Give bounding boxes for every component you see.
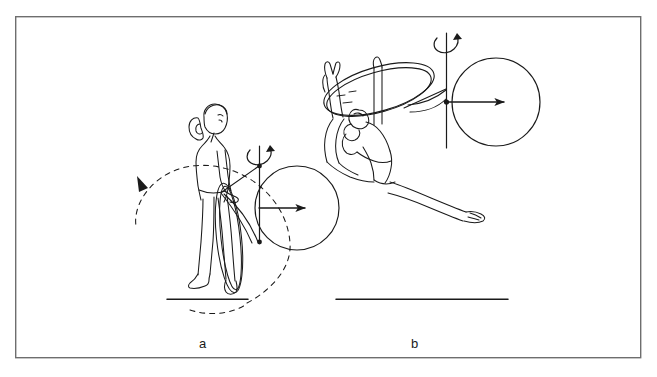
panel-b-gymnast bbox=[325, 57, 485, 223]
panel-a-gymnast bbox=[189, 104, 239, 294]
panel-a-label: a bbox=[199, 337, 206, 350]
panel-a bbox=[136, 104, 339, 314]
panel-b-torso-top bbox=[366, 122, 390, 151]
panel-b-hand-upper bbox=[325, 62, 333, 78]
panel-b-hip-line bbox=[374, 180, 395, 184]
figure-border bbox=[16, 17, 641, 358]
panel-a-leg-front bbox=[198, 199, 203, 275]
panel-a-spin-arrow bbox=[247, 145, 275, 165]
panel-b-arm-back bbox=[325, 119, 333, 162]
panel-b-torso-bottom bbox=[357, 152, 391, 163]
panel-a-hoop-axis-links bbox=[221, 166, 259, 243]
panel-b-label: b bbox=[411, 337, 418, 350]
panel-b-hair-bun bbox=[344, 124, 360, 141]
panel-b-head bbox=[349, 109, 369, 128]
figure-canvas bbox=[0, 0, 657, 377]
panel-a-torso bbox=[196, 136, 210, 200]
panel-b-ponytail bbox=[342, 134, 357, 154]
panel-a-foot-front bbox=[189, 274, 211, 288]
panel-b-hand-extended bbox=[464, 212, 485, 223]
panel-b bbox=[318, 33, 540, 299]
figure-root: a b bbox=[0, 0, 657, 377]
panel-a-axis-node-bottom bbox=[257, 240, 262, 245]
panel-b-spin-arrow bbox=[434, 33, 462, 53]
panel-b-forearm-back bbox=[327, 162, 374, 182]
